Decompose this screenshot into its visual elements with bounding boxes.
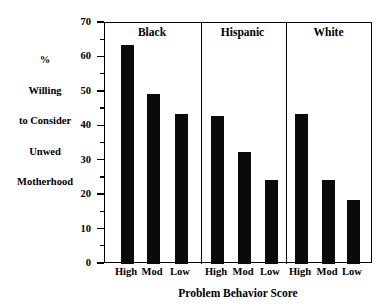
y-tick-major [97, 262, 104, 263]
bar [347, 200, 360, 264]
y-tick-label: 60 [51, 51, 91, 62]
x-tick-label: Low [335, 266, 369, 277]
x-axis-title: Problem Behavior Score [104, 287, 372, 299]
panel-divider [286, 23, 287, 264]
y-tick-major [97, 228, 104, 229]
bar [121, 45, 134, 264]
panel-title-hispanic: Hispanic [200, 26, 285, 38]
x-tick-label: Low [253, 266, 287, 277]
bar-chart: % Willing to Consider Unwed Motherhood 0… [0, 0, 388, 306]
y-tick-label: 70 [51, 17, 91, 28]
y-axis-label-line: Motherhood [2, 177, 88, 188]
panel-title-white: White [285, 26, 372, 38]
bar [238, 152, 251, 264]
y-tick-major [97, 90, 104, 91]
plot-area [104, 22, 372, 263]
y-tick-major [97, 21, 104, 22]
y-tick-major [97, 125, 104, 126]
bar [211, 116, 224, 264]
bar [322, 180, 335, 264]
y-tick-label: 50 [51, 86, 91, 97]
bar [147, 94, 160, 264]
y-tick-label: 20 [51, 189, 91, 200]
y-tick-label: 40 [51, 120, 91, 131]
panel-divider [201, 23, 202, 264]
y-tick-label: 0 [51, 258, 91, 269]
panel-title-black: Black [104, 26, 200, 38]
y-tick-major [97, 193, 104, 194]
y-tick-label: 10 [51, 224, 91, 235]
bar [265, 180, 278, 264]
bar [175, 114, 188, 264]
y-tick-label: 30 [51, 155, 91, 166]
y-tick-major [97, 56, 104, 57]
y-tick-major [97, 159, 104, 160]
bar [295, 114, 308, 264]
x-tick-label: Low [163, 266, 197, 277]
